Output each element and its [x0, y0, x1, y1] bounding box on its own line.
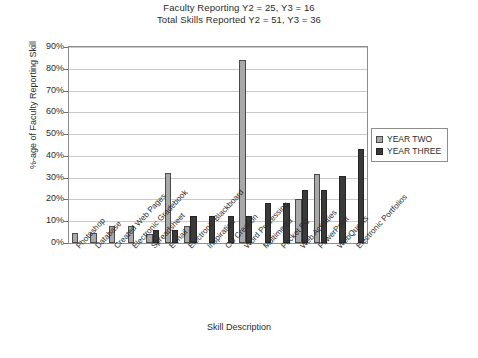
chart-legend: YEAR TWOYEAR THREE: [371, 128, 448, 162]
y-tick-label: 10%: [24, 216, 64, 225]
y-tick-mark: [64, 243, 68, 244]
bar-year-two: [239, 60, 245, 243]
y-tick-label: 30%: [24, 173, 64, 182]
y-tick-mark: [64, 91, 68, 92]
legend-label: YEAR THREE: [387, 146, 441, 156]
y-tick-label: 0%: [24, 238, 64, 247]
legend-swatch-icon: [376, 148, 383, 155]
legend-item[interactable]: YEAR THREE: [376, 145, 441, 157]
y-axis-tick-labels: 0%10%20%30%40%50%60%70%80%90%: [22, 46, 64, 244]
x-axis-title: Skill Description: [0, 322, 478, 332]
chart-title-line-1: Faculty Reporting Y2 = 25, Y3 = 16: [0, 2, 478, 14]
y-tick-mark: [64, 156, 68, 157]
chart-title-line-2: Total Skills Reported Y2 = 51, Y3 = 36: [0, 14, 478, 26]
bar-group: [69, 47, 88, 243]
y-tick-mark: [64, 199, 68, 200]
y-tick-label: 70%: [24, 86, 64, 95]
bar-group: [293, 47, 312, 243]
y-tick-mark: [64, 47, 68, 48]
y-tick-mark: [64, 221, 68, 222]
chart-title-block: Faculty Reporting Y2 = 25, Y3 = 16 Total…: [0, 2, 478, 26]
legend-item[interactable]: YEAR TWO: [376, 133, 441, 145]
y-tick-label: 60%: [24, 107, 64, 116]
y-tick-label: 50%: [24, 129, 64, 138]
legend-swatch-icon: [376, 136, 383, 143]
y-tick-label: 90%: [24, 42, 64, 51]
y-tick-mark: [64, 69, 68, 70]
legend-label: YEAR TWO: [387, 134, 432, 144]
bar-group: [106, 47, 125, 243]
bar-group: [88, 47, 107, 243]
y-tick-mark: [64, 178, 68, 179]
y-tick-mark: [64, 134, 68, 135]
y-tick-label: 20%: [24, 194, 64, 203]
y-tick-label: 40%: [24, 151, 64, 160]
y-tick-label: 80%: [24, 64, 64, 73]
bar-chart: Faculty Reporting Y2 = 25, Y3 = 16 Total…: [0, 0, 478, 358]
y-tick-mark: [64, 112, 68, 113]
